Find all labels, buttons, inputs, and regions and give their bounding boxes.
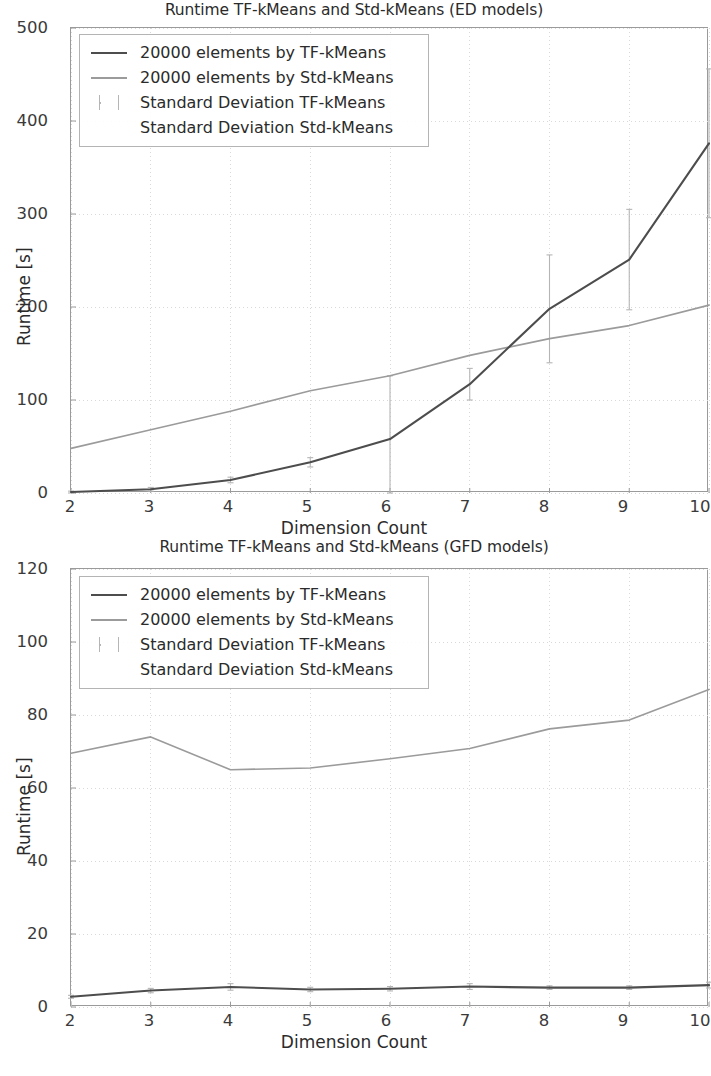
legend-label: Standard Deviation TF-kMeans xyxy=(140,637,385,653)
ytick-label-ed-300: 300 xyxy=(0,204,48,223)
legend-gfd: 20000 elements by TF-kMeans20000 element… xyxy=(79,576,429,689)
yaxis-label-gfd: Runtime [s] xyxy=(14,757,34,856)
ytick-label-gfd-80: 80 xyxy=(0,705,48,724)
legend-ed: 20000 elements by TF-kMeans20000 element… xyxy=(79,34,429,147)
legend-swatch-line-dark-icon xyxy=(89,45,129,61)
legend-item: Standard Deviation TF-kMeans xyxy=(89,632,416,657)
xtick-label-gfd-3: 3 xyxy=(144,1011,155,1030)
figure-ed-models: Runtime TF-kMeans and Std-kMeans (ED mod… xyxy=(0,0,708,530)
xtick-label-gfd-2: 2 xyxy=(65,1011,76,1030)
xaxis-label-ed: Dimension Count xyxy=(0,518,708,538)
legend-swatch-errorbar-icon xyxy=(89,95,129,111)
legend-swatch-none-icon xyxy=(89,662,129,678)
legend-swatch-line-dark-icon xyxy=(89,587,129,603)
ytick-label-gfd-120: 120 xyxy=(0,559,48,578)
legend-label: 20000 elements by TF-kMeans xyxy=(140,45,386,61)
xtick-label-gfd-8: 8 xyxy=(539,1011,550,1030)
xtick-label-ed-4: 4 xyxy=(223,497,234,516)
ytick-label-gfd-100: 100 xyxy=(0,632,48,651)
chart-title-ed: Runtime TF-kMeans and Std-kMeans (ED mod… xyxy=(0,1,708,19)
xtick-label-ed-2: 2 xyxy=(65,497,76,516)
ytick-label-gfd-0: 0 xyxy=(0,997,48,1016)
legend-swatch-line-gray-icon xyxy=(89,70,129,86)
ytick-label-ed-100: 100 xyxy=(0,390,48,409)
legend-label: Standard Deviation Std-kMeans xyxy=(140,120,393,136)
legend-swatch-line-gray-icon xyxy=(89,612,129,628)
legend-item: Standard Deviation Std-kMeans xyxy=(89,115,416,140)
chart-title-gfd: Runtime TF-kMeans and Std-kMeans (GFD mo… xyxy=(0,538,708,556)
legend-item: 20000 elements by Std-kMeans xyxy=(89,65,416,90)
ytick-label-ed-0: 0 xyxy=(0,483,48,502)
legend-item: 20000 elements by Std-kMeans xyxy=(89,607,416,632)
ytick-label-ed-500: 500 xyxy=(0,18,48,37)
legend-item: Standard Deviation Std-kMeans xyxy=(89,657,416,682)
legend-item: 20000 elements by TF-kMeans xyxy=(89,582,416,607)
xtick-label-ed-8: 8 xyxy=(539,497,550,516)
legend-swatch-none-icon xyxy=(89,120,129,136)
legend-label: Standard Deviation Std-kMeans xyxy=(140,662,393,678)
legend-label: 20000 elements by Std-kMeans xyxy=(140,612,394,628)
figure-gfd-models: Runtime TF-kMeans and Std-kMeans (GFD mo… xyxy=(0,536,708,1076)
xtick-label-gfd-7: 7 xyxy=(460,1011,471,1030)
xaxis-label-gfd: Dimension Count xyxy=(0,1032,708,1052)
legend-item: 20000 elements by TF-kMeans xyxy=(89,40,416,65)
xtick-label-ed-6: 6 xyxy=(381,497,392,516)
legend-label: 20000 elements by Std-kMeans xyxy=(140,70,394,86)
xtick-label-gfd-6: 6 xyxy=(381,1011,392,1030)
legend-item: Standard Deviation TF-kMeans xyxy=(89,90,416,115)
xtick-label-ed-10: 10 xyxy=(690,497,711,516)
legend-label: Standard Deviation TF-kMeans xyxy=(140,95,385,111)
xtick-label-gfd-9: 9 xyxy=(618,1011,629,1030)
ytick-label-gfd-20: 20 xyxy=(0,924,48,943)
xtick-label-gfd-4: 4 xyxy=(223,1011,234,1030)
xtick-label-ed-3: 3 xyxy=(144,497,155,516)
series-line-0 xyxy=(71,143,709,492)
xtick-label-ed-7: 7 xyxy=(460,497,471,516)
legend-swatch-errorbar-icon xyxy=(89,637,129,653)
xtick-label-ed-9: 9 xyxy=(618,497,629,516)
legend-label: 20000 elements by TF-kMeans xyxy=(140,587,386,603)
ytick-label-ed-400: 400 xyxy=(0,111,48,130)
xtick-label-gfd-10: 10 xyxy=(690,1011,711,1030)
xtick-label-ed-5: 5 xyxy=(302,497,313,516)
xtick-label-gfd-5: 5 xyxy=(302,1011,313,1030)
yaxis-label-ed: Runtime [s] xyxy=(14,247,34,346)
